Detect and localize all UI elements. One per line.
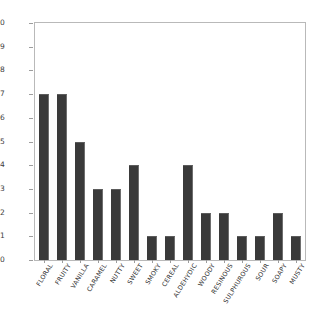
x-axis-label: SWEET: [125, 262, 143, 285]
bar-musty[interactable]: [291, 236, 300, 260]
bar-smoky[interactable]: [147, 236, 156, 260]
bar-slot: [291, 23, 300, 260]
x-axis-tick-mark: [224, 260, 225, 263]
x-axis-label: FLORAL: [34, 262, 53, 287]
x-axis-labels: FLORALFRUITYVANILLACARAMELNUTTYSWEETSMOK…: [35, 262, 305, 321]
bar-sour[interactable]: [255, 236, 264, 260]
y-axis: 012345678910: [0, 0, 34, 321]
bar-vanilla[interactable]: [75, 142, 84, 261]
bar-floral[interactable]: [39, 94, 48, 260]
bar-woody[interactable]: [201, 213, 210, 260]
bar-sulphurous[interactable]: [237, 236, 246, 260]
x-axis-label: SOAPY: [270, 262, 288, 284]
bar-slot: [183, 23, 192, 260]
bar-slot: [237, 23, 246, 260]
y-axis-tick-label: 5: [0, 136, 5, 148]
y-axis-tick-mark: [29, 260, 33, 261]
x-axis-tick-mark: [188, 260, 189, 263]
bar-soapy[interactable]: [273, 213, 282, 260]
x-axis-tick-mark: [134, 260, 135, 263]
x-axis-tick-mark: [116, 260, 117, 263]
bars-container: [35, 23, 305, 260]
bar-caramel[interactable]: [93, 189, 102, 260]
y-axis-tick-label: 4: [0, 159, 5, 171]
bar-slot: [57, 23, 66, 260]
x-axis-label: SMOKY: [143, 262, 161, 286]
x-axis-tick-mark: [242, 260, 243, 263]
y-axis-tick-label: 7: [0, 88, 5, 100]
x-axis-tick-mark: [260, 260, 261, 263]
bar-resinous[interactable]: [219, 213, 228, 260]
x-axis-label: CEREAL: [160, 262, 180, 288]
x-axis-tick-mark: [296, 260, 297, 263]
y-axis-tick-mark: [29, 23, 33, 24]
bar-slot: [147, 23, 156, 260]
bar-slot: [165, 23, 174, 260]
x-axis-tick-mark: [170, 260, 171, 263]
bar-slot: [111, 23, 120, 260]
y-axis-tick-mark: [29, 94, 33, 95]
y-axis-tick-mark: [29, 118, 33, 119]
x-axis-tick-mark: [206, 260, 207, 263]
y-axis-tick-label: 2: [0, 207, 5, 219]
y-axis-tick-label: 3: [0, 183, 5, 195]
x-axis-tick-mark: [152, 260, 153, 263]
bar-slot: [255, 23, 264, 260]
x-axis-tick-mark: [62, 260, 63, 263]
y-axis-tick-label: 10: [0, 17, 5, 29]
y-axis-tick-mark: [29, 47, 33, 48]
y-axis-tick-mark: [29, 189, 33, 190]
bar-slot: [201, 23, 210, 260]
x-axis-label: NUTTY: [108, 262, 126, 284]
y-axis-tick-label: 9: [0, 41, 5, 53]
bar-nutty[interactable]: [111, 189, 120, 260]
y-axis-tick-label: 0: [0, 254, 5, 266]
x-axis-label: SOUR: [253, 262, 269, 282]
x-axis-label: FRUITY: [53, 262, 71, 286]
bar-cereal[interactable]: [165, 236, 174, 260]
x-axis-label: MUSTY: [287, 262, 305, 285]
x-axis-tick-mark: [98, 260, 99, 263]
bar-slot: [273, 23, 282, 260]
bar-slot: [219, 23, 228, 260]
bar-chart-figure: 012345678910 FLORALFRUITYVANILLACARAMELN…: [0, 0, 319, 321]
y-axis-tick-label: 8: [0, 64, 5, 76]
x-axis-label: WOODY: [196, 262, 216, 288]
y-axis-tick-mark: [29, 165, 33, 166]
x-axis-tick-mark: [44, 260, 45, 263]
bar-slot: [39, 23, 48, 260]
bar-slot: [93, 23, 102, 260]
x-axis-tick-mark: [278, 260, 279, 263]
y-axis-tick-mark: [29, 70, 33, 71]
y-axis-tick-mark: [29, 213, 33, 214]
y-axis-tick-label: 6: [0, 112, 5, 124]
bar-sweet[interactable]: [129, 165, 138, 260]
y-axis-tick-mark: [29, 236, 33, 237]
bar-fruity[interactable]: [57, 94, 66, 260]
y-axis-tick-label: 1: [0, 230, 5, 242]
bar-slot: [75, 23, 84, 260]
bar-slot: [129, 23, 138, 260]
y-axis-tick-mark: [29, 142, 33, 143]
x-axis-tick-mark: [80, 260, 81, 263]
bar-aldehydic[interactable]: [183, 165, 192, 260]
